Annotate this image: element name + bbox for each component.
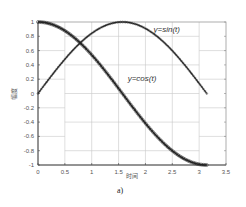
y-tick-label: -0.4 [24,119,35,125]
chart-figure: 00.511.522.533.5-1-0.8-0.6-0.4-0.200.20.… [0,0,246,207]
y-tick-label: -0.6 [24,133,35,139]
sin-annotation: y=sin(t) [152,25,180,34]
figure-caption: a) [117,186,124,195]
y-tick-label: 0.8 [26,33,35,39]
x-axis-label: 时间 [126,172,138,180]
x-tick-label: 3.5 [222,169,231,175]
y-tick-label: 0.2 [26,76,35,82]
x-tick-label: 2.5 [168,169,177,175]
x-tick-label: 1.5 [114,169,123,175]
y-tick-label: -0.8 [24,148,35,154]
y-tick-label: -0.2 [24,105,35,111]
y-tick-label: 0.6 [26,48,35,54]
y-tick-label: -1 [29,162,35,168]
y-tick-label: 0.4 [26,62,35,68]
cos-annotation: y=cos(t) [127,74,157,83]
x-tick-label: 0.5 [61,169,70,175]
y-axis-label: 幅度 [10,88,18,100]
